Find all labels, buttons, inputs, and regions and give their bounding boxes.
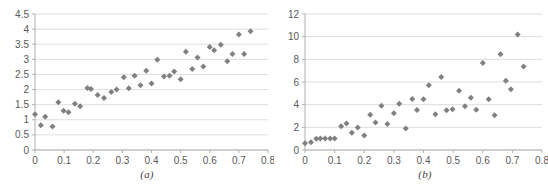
x-tick-label: 0.3 [387, 155, 401, 166]
x-tick-label: 0.3 [115, 155, 129, 166]
data-point-marker [378, 103, 384, 109]
x-tick-label: 0 [302, 155, 308, 166]
data-point-marker [426, 82, 432, 88]
data-point-marker [49, 123, 55, 129]
data-point-marker [462, 103, 468, 109]
data-point-marker [241, 51, 247, 57]
data-point-marker [65, 109, 71, 115]
panel-a: 00.511.522.533.544.500.10.20.30.40.50.60… [0, 0, 274, 195]
data-point-marker [178, 76, 184, 82]
x-tick-label: 0.8 [261, 155, 274, 166]
data-point-marker [498, 51, 504, 57]
y-tick-label: 0.5 [15, 129, 29, 140]
x-tick-label: 0.2 [357, 155, 371, 166]
x-tick-label: 0.1 [328, 155, 342, 166]
data-point-marker [211, 47, 217, 53]
x-tick-label: 0.6 [203, 155, 217, 166]
data-point-marker [391, 110, 397, 116]
y-tick-label: 10 [288, 31, 300, 42]
data-point-marker [486, 96, 492, 102]
data-point-marker [456, 88, 462, 94]
y-tick-label: 2 [293, 122, 299, 133]
data-point-marker [72, 101, 78, 107]
data-point-marker [349, 130, 355, 136]
y-tick-label: 1 [23, 114, 29, 125]
data-point-marker [450, 106, 456, 112]
data-point-marker [396, 101, 402, 107]
data-point-marker [421, 96, 427, 102]
data-point-marker [77, 103, 83, 109]
data-point-marker [236, 32, 242, 38]
y-tick-label: 4 [293, 99, 299, 110]
data-point-marker [200, 64, 206, 70]
data-point-marker [508, 86, 514, 92]
x-tick-label: 0.8 [535, 155, 548, 166]
chart-b: 02468101200.10.20.30.40.50.60.70.8 [274, 0, 548, 195]
data-point-marker [167, 73, 173, 79]
data-point-marker [61, 108, 67, 114]
y-tick-label: 0 [293, 145, 299, 156]
x-tick-label: 0.5 [446, 155, 460, 166]
scatter-plot-figure: 00.511.522.533.544.500.10.20.30.40.50.60… [0, 0, 548, 195]
data-point-marker [473, 107, 479, 113]
y-tick-label: 8 [293, 54, 299, 65]
data-point-marker [503, 78, 509, 84]
data-point-marker [149, 81, 155, 87]
data-point-marker [444, 107, 450, 113]
x-tick-label: 0.4 [145, 155, 159, 166]
data-point-marker [384, 121, 390, 127]
data-point-marker [367, 112, 373, 118]
data-point-marker [154, 57, 160, 63]
data-point-marker [95, 92, 101, 98]
data-point-marker [409, 96, 415, 102]
y-tick-label: 4 [23, 24, 29, 35]
data-point-marker [308, 139, 314, 145]
data-point-marker [373, 120, 379, 126]
x-tick-label: 0.2 [86, 155, 100, 166]
data-point-marker [492, 112, 498, 118]
panel-b-caption: (b) [274, 168, 548, 180]
x-tick-label: 0.6 [476, 155, 490, 166]
x-tick-label: 0 [32, 155, 38, 166]
x-tick-label: 0.5 [174, 155, 188, 166]
data-point-marker [143, 68, 149, 74]
y-tick-label: 2 [23, 84, 29, 95]
x-tick-label: 0.1 [57, 155, 71, 166]
data-point-marker [183, 49, 189, 55]
data-point-marker [32, 111, 38, 117]
x-tick-label: 0.7 [505, 155, 519, 166]
data-point-marker [101, 95, 107, 101]
data-point-marker [480, 60, 486, 66]
data-point-marker [432, 111, 438, 117]
data-point-marker [38, 122, 44, 128]
data-point-marker [218, 42, 224, 48]
chart-a: 00.511.522.533.544.500.10.20.30.40.50.60… [0, 0, 274, 195]
data-point-marker [229, 51, 235, 57]
data-point-marker [361, 132, 367, 138]
data-point-marker [207, 44, 213, 50]
data-point-marker [468, 95, 474, 101]
y-tick-label: 6 [293, 77, 299, 88]
y-tick-label: 1.5 [15, 99, 29, 110]
data-point-marker [521, 64, 527, 70]
data-point-marker [355, 125, 361, 131]
data-point-marker [438, 74, 444, 80]
y-tick-label: 3.5 [15, 39, 29, 50]
data-point-marker [338, 123, 344, 129]
data-point-marker [403, 125, 409, 131]
data-point-marker [132, 73, 138, 79]
data-point-marker [114, 87, 120, 93]
y-tick-label: 2.5 [15, 69, 29, 80]
y-tick-label: 12 [288, 9, 300, 20]
y-tick-label: 3 [23, 54, 29, 65]
data-point-marker [171, 68, 177, 74]
y-tick-label: 4.5 [15, 9, 29, 20]
data-point-marker [343, 121, 349, 127]
data-point-marker [121, 74, 127, 80]
data-point-marker [42, 114, 48, 120]
data-point-marker [126, 85, 132, 91]
data-point-marker [302, 140, 308, 146]
panel-a-caption: (a) [0, 168, 284, 180]
panel-b: 02468101200.10.20.30.40.50.60.70.8 (b) [274, 0, 548, 195]
data-point-marker [332, 135, 338, 141]
